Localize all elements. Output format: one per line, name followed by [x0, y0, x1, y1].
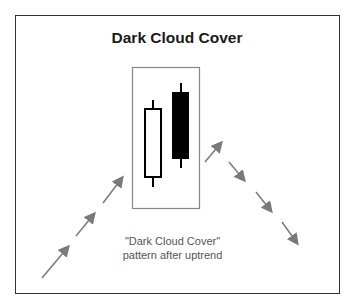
downtrend-arrows	[229, 162, 297, 243]
bullish-candle	[145, 100, 161, 187]
caption-line-2: pattern after uptrend	[110, 248, 235, 262]
caption-line-1: "Dark Cloud Cover"	[110, 234, 235, 248]
pattern-box	[133, 68, 200, 209]
pattern-caption: "Dark Cloud Cover" pattern after uptrend	[110, 234, 235, 262]
bearish-candle	[172, 83, 189, 168]
